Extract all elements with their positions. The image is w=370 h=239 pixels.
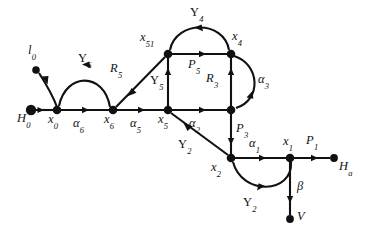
node-label-l0: l0 — [28, 44, 36, 59]
arrowhead-alpha1 — [259, 155, 266, 161]
arrowhead-Y5 — [165, 68, 171, 75]
edge-label-beta: β — [297, 180, 303, 195]
diagram-canvas: H0 l0 x0 x6 x5 x51 x4 x2 x1 Ha V α6 α5 α… — [0, 0, 370, 239]
edge-Y6 — [59, 81, 110, 107]
node-Ha — [330, 154, 338, 162]
edge-label-alpha6: α6 — [73, 117, 84, 132]
edge-label-Y2-arc: Υ2 — [243, 196, 256, 211]
arrowhead-P5 — [199, 51, 206, 57]
edge-label-alpha1: α1 — [249, 137, 260, 152]
edge-label-P3: P3 — [236, 122, 248, 137]
edge-Y2-arc — [233, 162, 291, 187]
node-x2 — [227, 154, 236, 163]
arrowhead-Y4 — [194, 24, 203, 31]
node-label-x1: x1 — [283, 135, 293, 150]
arrowhead-R3 — [228, 68, 234, 75]
node-label-V: V — [297, 210, 305, 225]
arrowhead-alpha6 — [82, 107, 89, 113]
node-x1 — [286, 154, 295, 163]
edge-label-alpha5: α5 — [130, 117, 141, 132]
node-label-Ha: Ha — [339, 160, 352, 175]
edge-label-R3: R3 — [206, 72, 218, 87]
node-label-x51: x51 — [140, 31, 154, 46]
node-label-x6: x6 — [104, 113, 114, 128]
node-x4 — [227, 50, 236, 59]
arrowhead-R5 — [127, 88, 137, 97]
edge-label-Y4: Υ4 — [190, 6, 203, 21]
arrowhead-beta — [287, 196, 293, 203]
node-label-x0: x0 — [48, 113, 58, 128]
node-label-x2: x2 — [211, 161, 221, 176]
edge-label-P1: P1 — [306, 134, 318, 149]
edge-label-R5: R5 — [110, 62, 122, 77]
node-label-x5: x5 — [158, 113, 168, 128]
arrowhead-alpha3 — [247, 91, 254, 99]
edge-label-alpha2: α2 — [189, 117, 200, 132]
edge-label-P5: P5 — [188, 58, 200, 73]
edge-label-Y5: Υ5 — [150, 74, 163, 89]
node-junction-P3 — [227, 106, 236, 115]
node-V — [286, 215, 294, 223]
node-label-H0: H0 — [17, 112, 30, 127]
arrowhead-alpha2 — [199, 107, 206, 113]
arrowhead-P3 — [228, 138, 234, 145]
node-x51 — [164, 50, 173, 59]
node-label-x4: x4 — [232, 30, 242, 45]
node-l0 — [32, 66, 40, 74]
edge-Y4 — [170, 28, 229, 51]
edge-alpha3 — [234, 56, 255, 108]
edge-label-alpha3: α3 — [258, 73, 269, 88]
arrowhead-P1 — [311, 155, 318, 161]
arrowhead-alpha5 — [138, 107, 145, 113]
edge-label-Y6: Υ6 — [78, 52, 91, 67]
arrowhead-H0-x0 — [38, 107, 45, 113]
edge-label-Y2-diag: Υ2 — [178, 138, 191, 153]
